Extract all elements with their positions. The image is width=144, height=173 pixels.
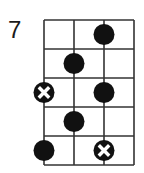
note-dot-icon (94, 82, 115, 103)
fret-grid (44, 20, 134, 165)
root-note-x-icon (94, 140, 115, 161)
note-dot-icon (34, 140, 55, 161)
fretboard (0, 0, 144, 173)
note-dot-icon (64, 111, 85, 132)
root-note-x-icon (34, 82, 55, 103)
note-dot-icon (64, 53, 85, 74)
note-dot-icon (94, 24, 115, 45)
